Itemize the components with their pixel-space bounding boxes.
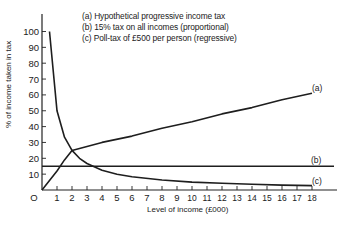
x-tick-label: 4 [99, 192, 104, 203]
series-b-label: (b) [311, 155, 322, 165]
x-tick-label: 13 [232, 193, 242, 203]
legend-item-b: (b) 15% tax on all incomes (proportional… [82, 22, 237, 33]
y-tick-label: 60 [28, 89, 39, 100]
x-tick-label: 10 [187, 193, 197, 203]
x-tick-label: 11 [203, 193, 212, 203]
x-tick-label: 15 [262, 193, 272, 203]
x-axis-label: Level of income (£000) [147, 205, 228, 214]
x-tick-label: 7 [144, 192, 149, 203]
series-a-label: (a) [312, 83, 323, 93]
x-tick-label: O [30, 192, 37, 203]
y-tick-label: 90 [28, 42, 39, 53]
x-tick-label: 5 [114, 192, 119, 203]
x-tick-label: 14 [247, 193, 257, 203]
x-axis-ticks: O123456789101112131415161718 [30, 186, 317, 203]
series-a-line [42, 93, 312, 190]
x-tick-label: 9 [174, 192, 179, 203]
x-tick-label: 16 [277, 193, 287, 203]
x-tick-label: 6 [129, 192, 134, 203]
series-c-label: (c) [312, 176, 322, 186]
series-lines [42, 32, 334, 191]
y-tick-label: 10 [28, 169, 39, 180]
x-tick-label: 12 [217, 193, 227, 203]
y-axis-label: % of income taken in tax [4, 41, 13, 128]
x-tick-label: 17 [292, 193, 302, 203]
y-tick-label: 40 [28, 121, 39, 132]
y-tick-label: 70 [28, 74, 39, 85]
y-tick-label: 30 [28, 137, 39, 148]
y-tick-label: 100 [23, 26, 39, 37]
x-tick-label: 1 [54, 192, 59, 203]
y-tick-label: 80 [28, 58, 39, 69]
x-tick-label: 8 [159, 192, 164, 203]
series-labels: (a)(b)(c) [311, 83, 323, 186]
y-tick-label: 50 [28, 105, 39, 116]
x-tick-label: 18 [307, 193, 317, 203]
legend-item-a: (a) Hypothetical progressive income tax [82, 11, 237, 22]
x-tick-label: 3 [84, 192, 89, 203]
series-c-line [50, 32, 313, 186]
legend: (a) Hypothetical progressive income tax … [82, 11, 237, 44]
y-tick-label: 20 [28, 153, 39, 164]
x-tick-label: 2 [69, 192, 74, 203]
legend-item-c: (c) Poll-tax of £500 per person (regress… [82, 33, 237, 44]
